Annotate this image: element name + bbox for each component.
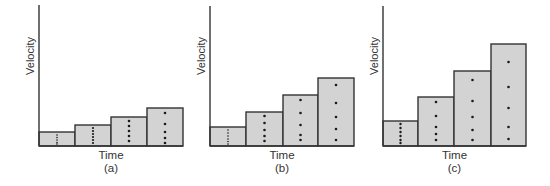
position-dot <box>471 100 474 103</box>
position-dot <box>128 120 131 123</box>
velocity-step-bar <box>454 71 491 146</box>
panel-label: (a) <box>104 162 118 174</box>
position-dot <box>128 135 131 138</box>
velocity-step-bar <box>246 112 283 146</box>
position-dot <box>164 137 167 140</box>
position-dot <box>507 138 510 141</box>
panel-c: VelocityTime(c) <box>368 6 526 174</box>
position-dot <box>227 143 229 145</box>
position-dot <box>471 116 474 119</box>
position-dot <box>507 126 510 129</box>
position-dot <box>128 140 131 143</box>
position-dot <box>56 139 58 141</box>
position-dot <box>56 143 58 145</box>
x-axis-label: Time <box>269 149 294 161</box>
position-dot <box>263 135 266 138</box>
position-dot <box>399 139 401 141</box>
position-dot <box>92 127 94 129</box>
position-dot <box>335 116 338 119</box>
panel-a: VelocityTime(a) <box>24 5 183 174</box>
position-dot <box>263 122 266 125</box>
velocity-step-bar <box>491 44 526 146</box>
position-dot <box>335 139 338 142</box>
y-axis-label: Velocity <box>24 37 36 75</box>
position-dot <box>227 129 229 131</box>
position-dot <box>399 135 401 137</box>
position-dot <box>56 142 58 144</box>
position-dot <box>335 128 338 131</box>
position-dot <box>299 139 302 142</box>
position-dot <box>335 102 338 105</box>
position-dot <box>299 112 302 115</box>
velocity-step-bar <box>39 132 75 146</box>
position-dot <box>399 142 401 144</box>
position-dot <box>435 101 438 104</box>
position-dot <box>263 129 266 132</box>
velocity-time-figure: VelocityTime(a) VelocityTime(b) Velocity… <box>0 0 550 186</box>
position-dot <box>299 124 302 127</box>
velocity-step-bar <box>418 97 454 146</box>
position-dot <box>92 142 94 144</box>
position-dot <box>263 140 266 143</box>
velocity-step-bar <box>111 117 147 146</box>
position-dot <box>164 123 167 126</box>
velocity-step-bar <box>283 95 318 146</box>
position-dot <box>507 61 510 64</box>
position-dot <box>471 129 474 132</box>
panel-b: VelocityTime(b) <box>195 6 354 174</box>
position-dot <box>399 123 401 125</box>
x-axis-label: Time <box>442 149 467 161</box>
panel-label: (c) <box>448 162 462 174</box>
position-dot <box>471 139 474 142</box>
velocity-step-bar <box>75 125 111 146</box>
velocity-step-bar <box>147 108 183 146</box>
position-dot <box>399 131 401 133</box>
y-axis-label: Velocity <box>195 37 207 75</box>
position-dot <box>299 134 302 137</box>
position-dot <box>92 139 94 141</box>
position-dot <box>399 127 401 129</box>
position-dot <box>471 79 474 82</box>
position-dot <box>164 112 167 115</box>
position-dot <box>92 130 94 132</box>
position-dot <box>56 134 58 136</box>
position-dot <box>164 142 167 145</box>
velocity-step-bar <box>210 127 246 146</box>
y-axis-label: Velocity <box>368 37 380 75</box>
velocity-step-bar <box>383 121 418 146</box>
position-dot <box>227 135 229 137</box>
position-dot <box>435 139 438 142</box>
position-dot <box>56 137 58 139</box>
position-dot <box>263 115 266 118</box>
velocity-step-bar <box>318 78 354 146</box>
position-dot <box>128 125 131 128</box>
position-dot <box>335 84 338 87</box>
position-dot <box>92 136 94 138</box>
position-dot <box>507 107 510 110</box>
position-dot <box>92 133 94 135</box>
position-dot <box>435 115 438 118</box>
position-dot <box>507 86 510 89</box>
position-dot <box>435 133 438 136</box>
position-dot <box>227 141 229 143</box>
position-dot <box>227 132 229 134</box>
position-dot <box>227 138 229 140</box>
position-dot <box>435 126 438 129</box>
position-dot <box>299 99 302 102</box>
position-dot <box>164 131 167 134</box>
x-axis-label: Time <box>98 149 123 161</box>
position-dot <box>128 130 131 133</box>
panel-label: (b) <box>275 162 289 174</box>
